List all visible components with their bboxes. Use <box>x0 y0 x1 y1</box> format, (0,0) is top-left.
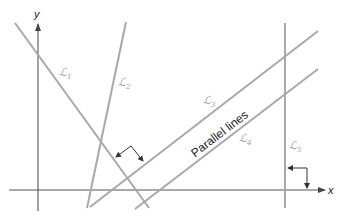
line-l2 <box>87 22 126 208</box>
l5-distance-marker <box>288 168 307 188</box>
label-l4: ℒ4 <box>239 132 251 147</box>
perpendicular-distance-marker <box>116 146 143 161</box>
line-l1 <box>15 23 149 208</box>
lines <box>15 22 318 209</box>
label-l1: ℒ1 <box>59 66 71 81</box>
y-axis-label: y <box>33 8 41 20</box>
label-l2: ℒ2 <box>118 76 131 91</box>
x-axis-label: x <box>327 184 334 196</box>
label-l5: ℒ5 <box>289 139 302 154</box>
line-l3 <box>90 31 318 207</box>
lines-diagram: x y ℒ1 ℒ2 ℒ3 ℒ4 ℒ5 Par <box>0 0 337 221</box>
label-l3: ℒ3 <box>203 94 216 109</box>
